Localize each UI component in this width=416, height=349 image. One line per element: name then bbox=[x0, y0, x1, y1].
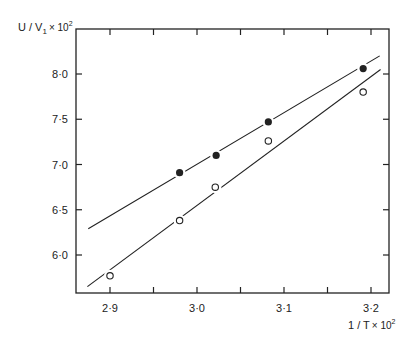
x-tick-label: 3·2 bbox=[363, 302, 379, 314]
open-circle-marker bbox=[107, 273, 113, 279]
y-tick-label: 6·5 bbox=[52, 204, 68, 216]
plot-frame bbox=[76, 29, 389, 293]
fit-line-filled bbox=[88, 56, 379, 229]
y-tick-label: 6·0 bbox=[52, 249, 68, 261]
x-axis-label: 1 / T× 102 bbox=[348, 318, 396, 331]
y-tick-label: 7·5 bbox=[52, 113, 68, 125]
y-axis-ticks: 6·06·57·07·58·0 bbox=[52, 68, 389, 261]
fit-lines bbox=[87, 56, 380, 287]
open-circle-marker bbox=[176, 217, 182, 223]
x-tick-label: 3·1 bbox=[276, 302, 292, 314]
filled-circle-marker bbox=[360, 65, 367, 72]
y-tick-label: 8·0 bbox=[52, 68, 68, 80]
plot-border bbox=[76, 29, 389, 293]
open-circle-marker bbox=[360, 89, 366, 95]
fit-line-open bbox=[87, 69, 380, 286]
x-tick-label: 3·0 bbox=[189, 302, 205, 314]
y-tick-label: 7·0 bbox=[52, 159, 68, 171]
filled-circle-marker bbox=[213, 152, 220, 159]
filled-circle-marker bbox=[265, 118, 272, 125]
chart: 2·93·03·13·2 6·06·57·07·58·0 U / V1× 102… bbox=[0, 0, 416, 349]
y-axis-label: U / V1× 102 bbox=[18, 20, 73, 36]
data-points bbox=[104, 63, 369, 282]
x-axis-ticks: 2·93·03·13·2 bbox=[102, 29, 379, 314]
filled-circle-marker bbox=[176, 169, 183, 176]
x-tick-label: 2·9 bbox=[102, 302, 118, 314]
open-circle-marker bbox=[265, 138, 271, 144]
open-circle-marker bbox=[212, 184, 218, 190]
